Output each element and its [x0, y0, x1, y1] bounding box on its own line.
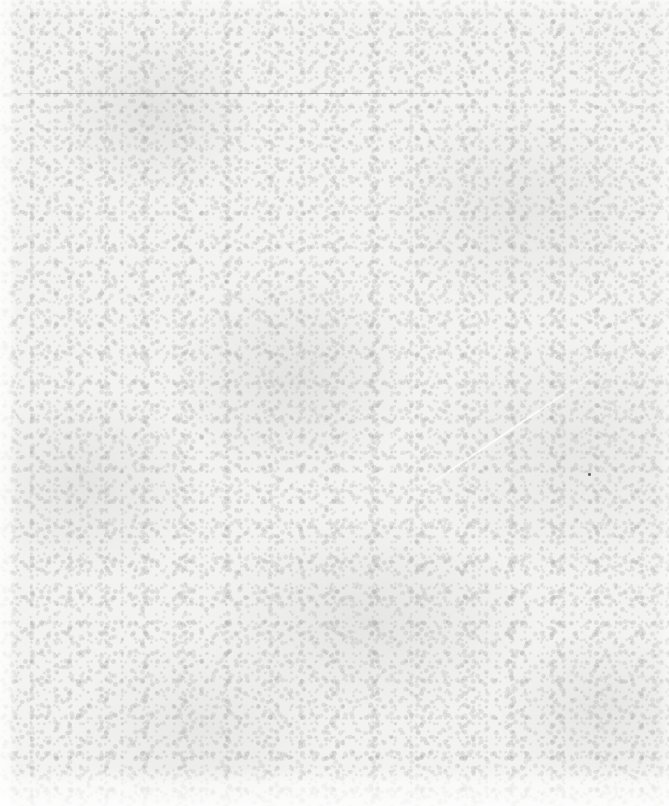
paper-blotches [0, 0, 669, 806]
paper-margin-right [657, 0, 669, 806]
horizontal-rule [18, 93, 497, 94]
paper-grain-fine [0, 0, 669, 806]
paper-margin-bottom [0, 768, 669, 806]
scanned-page [0, 0, 669, 806]
paper-crease [405, 360, 613, 501]
paper-grain-coarse [0, 0, 669, 806]
ink-speck [588, 473, 591, 476]
paper-margin-top [0, 0, 669, 14]
paper-margin-left [0, 0, 17, 806]
